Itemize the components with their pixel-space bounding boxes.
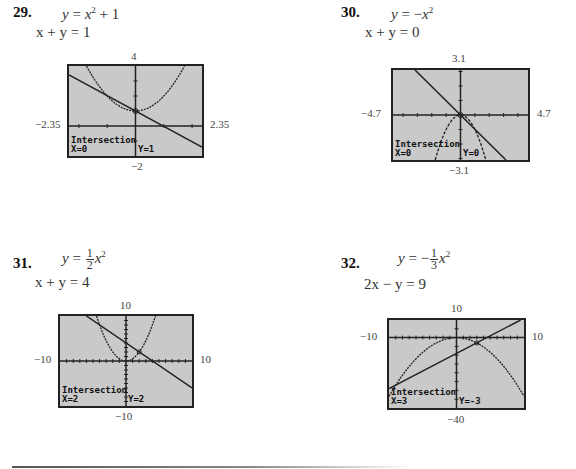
intersection-x: X=0 [71,145,87,154]
equation-2: x + y = 1 [36,24,90,41]
intersection-x: X=0 [395,149,411,158]
problem-number: 32. [341,255,360,272]
xmin-label: −10 [34,353,51,365]
intersection-x: X=3 [391,397,407,406]
calculator-screen: Intersection X=0 Y=1 [67,64,204,158]
xmin-label: −4.7 [361,107,381,119]
equation-1: y = x2 + 1 [62,5,119,23]
problem-number: 30. [341,4,360,21]
intersection-y: Y=1 [138,145,154,154]
calculator-screen: Intersection X=3 Y=-3 [387,318,526,410]
ymax-label: 10 [451,302,462,314]
xmax-label: 2.35 [210,118,229,130]
intersection-y: Y=0 [463,149,479,158]
equation-1: y = −x2 [391,5,433,23]
xmax-label: 10 [532,330,543,342]
calculator-screen: Intersection X=0 Y=0 [391,68,530,162]
calculator-screen: Intersection X=2 Y=2 [58,314,194,408]
page-divider [12,466,412,468]
equation-1: y = 12x2 [62,248,106,271]
equation-2: 2x − y = 9 [364,276,426,293]
xmax-label: 4.7 [537,107,551,119]
fraction: 13 [430,248,438,271]
ymin-label: −40 [447,413,464,425]
equation-2: x + y = 4 [35,274,89,291]
equation-1: y = −13x2 [398,248,450,271]
ymax-label: 4 [131,50,137,62]
problem-number: 31. [13,255,32,272]
ymax-label: 3.1 [452,52,466,64]
fraction: 12 [86,248,94,271]
xmax-label: 10 [200,353,211,365]
equation-2: x + y = 0 [365,24,419,41]
xmin-label: −10 [360,330,377,342]
intersection-y: Y=-3 [459,397,481,406]
ymin-label: −2 [131,160,143,172]
ymin-label: −10 [115,410,132,422]
intersection-y: Y=2 [128,395,144,404]
xmin-label: −2.35 [35,118,60,130]
problem-number: 29. [13,4,32,21]
intersection-x: X=2 [62,395,78,404]
ymin-label: −3.1 [449,164,469,176]
ymax-label: 10 [120,299,131,311]
